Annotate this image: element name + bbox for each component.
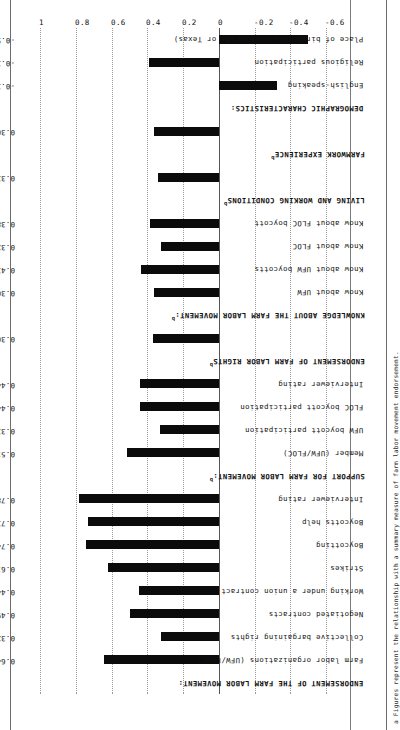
section-header-label: DEMOGRAPHIC CHARACTERISTICS:	[230, 105, 363, 112]
bar-value-label: 0.784	[0, 496, 15, 505]
gridline	[112, 28, 113, 694]
bar-value-label: -0.391	[0, 59, 15, 68]
category-label: Place of birth (Mexico/Florida or Texas)	[174, 36, 364, 43]
section-header-label: KNOWLEDGE ABOUT THE FARM LABOR MOVEMENT:…	[171, 312, 364, 321]
bar	[161, 632, 219, 641]
category-label: Know about FLOC boycott	[254, 220, 363, 227]
category-label: Know about FLOC	[292, 243, 363, 250]
axis-tick-label: -0.2	[254, 18, 274, 27]
category-label: Collective bargaining rights	[230, 634, 363, 641]
bar-value-label: 0.325	[0, 634, 15, 643]
bar-value-label: 0.437	[0, 266, 15, 275]
bar	[141, 265, 219, 274]
bar-chart-figure: -0.6-0.4-0.200.20.40.60.81 0.6440.3250.4…	[0, 0, 400, 730]
axis-tick-label: 0.6	[111, 18, 126, 27]
bar	[154, 288, 219, 297]
category-label: Know about UFW	[297, 289, 363, 296]
gridline	[76, 28, 77, 694]
bar-value-label: 0.644	[0, 657, 15, 666]
bar-value-label: 0.362	[0, 128, 15, 137]
bar-value-label: -0.502	[0, 36, 15, 45]
axis-tick-label: 0.2	[182, 18, 197, 27]
bar-value-label: 0.515	[0, 450, 15, 459]
bar	[86, 540, 218, 549]
section-header-label: ENDORSEMENT OF THE FARM LABOR MOVEMENT:	[178, 680, 363, 687]
category-label: Negotiated contracts	[268, 611, 363, 618]
axis-tick-label: 1	[39, 18, 44, 27]
axis-tick-label: 0.4	[146, 18, 161, 27]
bar	[139, 586, 219, 595]
bar-value-label: 0.734	[0, 519, 15, 528]
section-header-label: ENDORSEMENT OF FARM LABOR RIGHTSb	[209, 358, 364, 367]
bar-value-label: 0.331	[0, 427, 15, 436]
section-header-label: FARMWORK EXPERIENCEb	[271, 151, 365, 160]
bar-value-label: 0.440	[0, 381, 15, 390]
figure-bottom-rule	[386, 0, 387, 730]
category-label: English-speaking	[287, 82, 363, 89]
bar	[127, 448, 219, 457]
axis-tick-label: -0.4	[289, 18, 309, 27]
category-label: Religious participation	[254, 59, 363, 66]
figure-top-rule	[10, 0, 11, 730]
bar	[153, 334, 219, 343]
category-label: Farm labor organizations (UFW/FLOC)	[197, 657, 363, 664]
category-label: Working under a union contract	[221, 588, 363, 595]
bar-value-label: 0.741	[0, 542, 15, 551]
category-label: Member (UFW/FLOC)	[283, 450, 364, 457]
bar-value-label: 0.619	[0, 565, 15, 574]
bar	[160, 425, 219, 434]
bar-value-label: 0.496	[0, 611, 15, 620]
bar-value-label: 0.365	[0, 289, 15, 298]
bar	[88, 517, 219, 526]
bar	[149, 58, 219, 67]
category-label: Interviewer rating	[278, 381, 363, 388]
bar	[108, 563, 219, 572]
category-label: Know about UFW boycotts	[254, 266, 363, 273]
bar-value-label: 0.338	[0, 174, 15, 183]
bar	[130, 609, 219, 618]
rotated-figure-wrapper: -0.6-0.4-0.200.20.40.60.81 0.6440.3250.4…	[0, 0, 400, 730]
bar	[140, 402, 219, 411]
category-label: FLOC boycott participation	[240, 404, 363, 411]
category-label: Boycotts help	[302, 519, 364, 526]
axis-tick-label: 0.8	[75, 18, 90, 27]
axis-tick-label: 0	[218, 18, 223, 27]
bar-value-label: -0.328	[0, 82, 15, 91]
bar	[140, 379, 219, 388]
figure-footnote: a Figures represent the relationship wit…	[392, 351, 399, 724]
bar-value-label: 0.440	[0, 404, 15, 413]
category-label: Boycotting	[316, 542, 363, 549]
category-label: UFW boycott participation	[245, 427, 364, 434]
bar	[150, 219, 219, 228]
bar-value-label: 0.386	[0, 220, 15, 229]
bar	[154, 127, 219, 136]
bar	[158, 173, 218, 182]
section-header-label: LIVING AND WORKING CONDITIONSb	[224, 197, 365, 206]
bar-value-label: 0.447	[0, 588, 15, 597]
category-label: Interviewer rating	[278, 496, 363, 503]
bar	[219, 81, 278, 90]
gridline	[40, 28, 41, 694]
bar	[79, 494, 219, 503]
bar-value-label: 0.368	[0, 335, 15, 344]
axis-tick-label: -0.6	[325, 18, 345, 27]
bar	[161, 242, 219, 251]
section-header-label: SUPPORT FOR FARM LABOR MOVEMENT:b	[209, 473, 364, 482]
category-label: Strikes	[330, 565, 363, 572]
bar-value-label: 0.323	[0, 243, 15, 252]
